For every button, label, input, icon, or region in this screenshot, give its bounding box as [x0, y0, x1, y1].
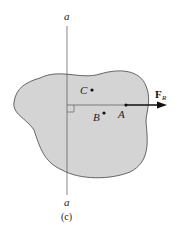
force-subscript: R: [161, 94, 167, 102]
force-label: F: [155, 88, 162, 100]
figure-caption: (c): [61, 211, 72, 223]
point-a-label: A: [117, 108, 125, 120]
rigid-body-diagram: a a C B A F R (c): [0, 0, 181, 230]
axis-label-bottom: a: [64, 196, 70, 208]
axis-label-top: a: [64, 10, 70, 22]
point-b-label: B: [93, 111, 100, 123]
point-a-dot: [124, 103, 127, 106]
point-b-dot: [102, 111, 105, 114]
point-c-label: C: [80, 84, 88, 96]
force-arrowhead: [157, 102, 167, 109]
point-c-dot: [90, 88, 93, 91]
